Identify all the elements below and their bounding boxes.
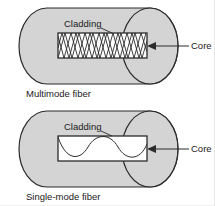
caption-singlemode: Single-mode fiber [26,191,100,202]
core-label-multimode: Core [191,40,212,51]
cladding-label-singlemode: Cladding [64,121,102,132]
core-label-singlemode: Core [191,143,212,154]
singlemode-fiber-panel: Cladding Core Single-mode fiber [0,103,215,206]
fiber-optic-diagram: Cladding Core Multimode fiber [0,0,215,206]
multimode-fiber-panel: Cladding Core Multimode fiber [0,0,215,103]
cladding-label-multimode: Cladding [64,18,102,29]
caption-multimode: Multimode fiber [26,88,91,99]
